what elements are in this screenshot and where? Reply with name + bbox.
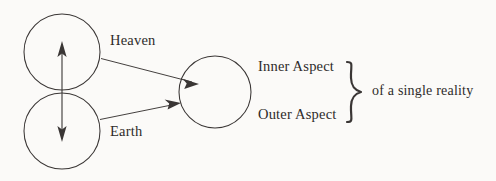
- label-heaven: Heaven: [110, 33, 155, 48]
- label-earth: Earth: [110, 124, 142, 139]
- union-circle: [179, 56, 251, 128]
- right-brace: [347, 62, 361, 122]
- earth-to-union-arrow: [100, 100, 181, 120]
- diagram-canvas: Heaven Earth Inner Aspect Outer Aspect o…: [0, 0, 496, 181]
- arrowhead-earth-to-union: [165, 100, 181, 110]
- vertical-double-arrow: [57, 41, 66, 142]
- label-inner-aspect: Inner Aspect: [258, 59, 334, 74]
- arrowhead-heaven-to-union: [183, 79, 199, 89]
- label-outer-aspect: Outer Aspect: [258, 107, 337, 122]
- label-single-reality: of a single reality: [372, 84, 473, 98]
